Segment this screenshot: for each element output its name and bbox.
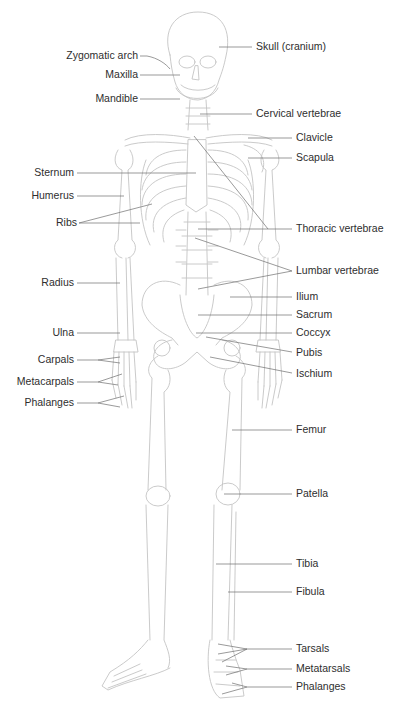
label-maxilla: Maxilla (105, 68, 138, 80)
label-carpals: Carpals (38, 353, 74, 365)
skeleton-diagram: Zygomatic arch Maxilla Mandible Sternum … (0, 0, 404, 717)
label-metacarpals: Metacarpals (17, 375, 74, 387)
right-leg-drawing (208, 356, 245, 698)
right-arm-drawing (256, 150, 282, 408)
label-pubis: Pubis (296, 346, 322, 358)
label-phalanges-foot: Phalanges (296, 680, 346, 692)
label-metatarsals: Metatarsals (296, 662, 350, 674)
label-ulna: Ulna (52, 326, 74, 338)
label-patella: Patella (296, 487, 328, 499)
cervical-drawing (186, 100, 210, 130)
pelvis-drawing (142, 281, 252, 369)
label-ilium: Ilium (296, 290, 318, 302)
label-humerus: Humerus (31, 189, 74, 201)
left-arm-drawing (112, 150, 138, 408)
label-coccyx: Coccyx (296, 326, 330, 338)
label-phalanges-hand: Phalanges (24, 396, 74, 408)
skull-drawing (168, 12, 228, 100)
label-sternum: Sternum (34, 166, 74, 178)
label-femur: Femur (296, 423, 326, 435)
label-tarsals: Tarsals (296, 642, 329, 654)
label-radius: Radius (41, 276, 74, 288)
label-zygomatic-arch: Zygomatic arch (66, 49, 138, 61)
label-clavicle: Clavicle (296, 131, 333, 143)
label-thoracic-vertebrae: Thoracic vertebrae (296, 222, 384, 234)
label-ischium: Ischium (296, 367, 332, 379)
label-scapula: Scapula (296, 151, 334, 163)
label-cervical-vertebrae: Cervical vertebrae (256, 107, 341, 119)
label-sacrum: Sacrum (296, 308, 332, 320)
label-mandible: Mandible (95, 92, 138, 104)
label-lumbar-vertebrae: Lumbar vertebrae (296, 264, 379, 276)
label-fibula: Fibula (296, 585, 325, 597)
left-leg-drawing (102, 356, 170, 690)
lumbar-drawing (176, 212, 218, 295)
label-skull: Skull (cranium) (256, 40, 326, 52)
label-tibia: Tibia (296, 557, 318, 569)
label-ribs: Ribs (56, 216, 77, 228)
